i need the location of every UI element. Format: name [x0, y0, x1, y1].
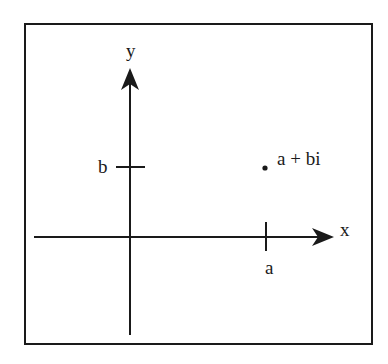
point-a-plus-bi	[262, 165, 267, 170]
y-tick-label: b	[98, 156, 108, 177]
y-axis-label: y	[126, 40, 136, 61]
point-label: a + bi	[277, 148, 320, 169]
complex-plane-diagram: y x b a a + bi	[0, 0, 388, 364]
x-axis-label: x	[340, 219, 350, 240]
frame-border	[25, 24, 372, 344]
x-tick-label: a	[265, 257, 274, 278]
